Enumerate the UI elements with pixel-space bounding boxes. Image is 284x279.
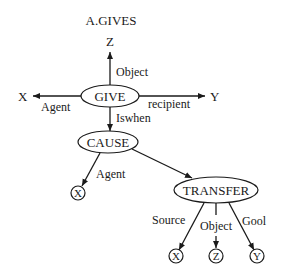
- semantic-network-diagram: A.GIVES Z Object X Agent Y recipient GIV…: [0, 0, 284, 279]
- edge-label-transfer-goal: Gool: [242, 214, 267, 228]
- diagram-title: A.GIVES: [86, 13, 137, 28]
- edge-cause-transfer: [132, 149, 192, 178]
- edge-label-transfer-source: Source: [152, 213, 185, 227]
- node-give-label: GIVE: [94, 89, 125, 104]
- node-transfer: TRANSFER: [174, 177, 258, 203]
- node-cause: CAUSE: [78, 131, 138, 153]
- svg-text:X: X: [172, 250, 180, 262]
- node-transfer-y: Y: [250, 249, 264, 263]
- node-transfer-label: TRANSFER: [183, 183, 250, 198]
- node-cause-label: CAUSE: [87, 135, 130, 150]
- node-transfer-z: Z: [209, 249, 223, 263]
- node-cause-x: X: [71, 186, 85, 200]
- node-y-right: Y: [210, 89, 220, 104]
- svg-text:Y: Y: [253, 250, 261, 262]
- svg-text:Z: Z: [213, 250, 220, 262]
- node-x-left: X: [18, 89, 28, 104]
- edge-label-give-recipient: recipient: [148, 97, 191, 111]
- edge-label-give-iswhen: Iswhen: [116, 111, 151, 125]
- node-give: GIVE: [81, 85, 139, 107]
- node-z-top: Z: [106, 34, 114, 49]
- svg-text:X: X: [74, 187, 82, 199]
- edge-label-give-agent: Agent: [41, 100, 71, 114]
- edge-label-give-object: Object: [116, 65, 149, 79]
- edge-label-cause-agent: Agent: [96, 167, 126, 181]
- node-transfer-x: X: [169, 249, 183, 263]
- edge-label-transfer-object: Object: [200, 219, 233, 233]
